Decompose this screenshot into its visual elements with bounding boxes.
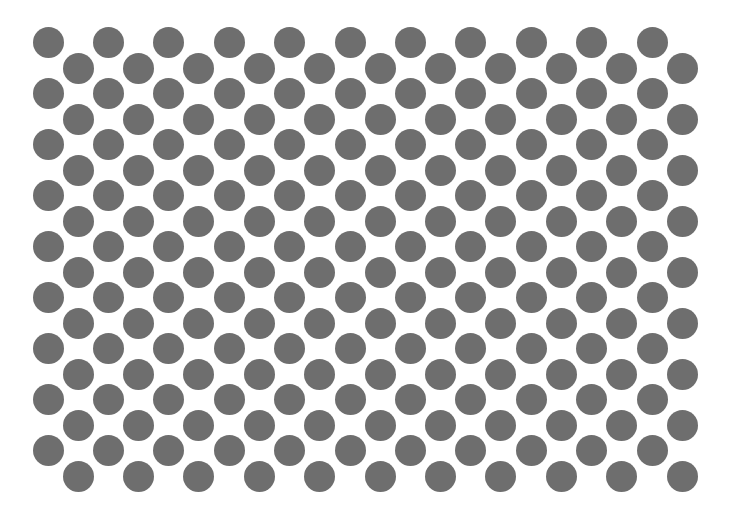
dot bbox=[637, 231, 668, 262]
dot bbox=[606, 206, 637, 237]
dot bbox=[183, 206, 214, 237]
dot bbox=[516, 282, 547, 313]
dot bbox=[637, 78, 668, 109]
dot bbox=[485, 53, 516, 84]
dot bbox=[516, 384, 547, 415]
dot bbox=[244, 461, 275, 492]
dot bbox=[123, 461, 154, 492]
dot bbox=[63, 206, 94, 237]
dot bbox=[576, 282, 607, 313]
dot bbox=[183, 461, 214, 492]
dot bbox=[304, 53, 335, 84]
dot bbox=[455, 78, 486, 109]
dot bbox=[485, 359, 516, 390]
dot bbox=[274, 231, 305, 262]
dot bbox=[214, 27, 245, 58]
dot bbox=[606, 359, 637, 390]
dot bbox=[33, 180, 64, 211]
dot bbox=[455, 333, 486, 364]
dot bbox=[274, 78, 305, 109]
dot bbox=[183, 410, 214, 441]
dot bbox=[123, 206, 154, 237]
dot bbox=[365, 461, 396, 492]
dot bbox=[33, 435, 64, 466]
dot bbox=[123, 359, 154, 390]
dot bbox=[153, 231, 184, 262]
dot bbox=[485, 410, 516, 441]
dot bbox=[395, 180, 426, 211]
dot bbox=[516, 435, 547, 466]
dot bbox=[304, 461, 335, 492]
dot bbox=[637, 384, 668, 415]
dot bbox=[516, 180, 547, 211]
dot bbox=[546, 410, 577, 441]
dot bbox=[637, 282, 668, 313]
dot bbox=[546, 53, 577, 84]
dot bbox=[33, 384, 64, 415]
dot bbox=[33, 282, 64, 313]
dot bbox=[425, 104, 456, 135]
dot bbox=[365, 206, 396, 237]
dot bbox=[304, 308, 335, 339]
dot bbox=[576, 231, 607, 262]
dot bbox=[153, 129, 184, 160]
dot bbox=[93, 333, 124, 364]
dot bbox=[274, 435, 305, 466]
dot bbox=[606, 257, 637, 288]
dot bbox=[485, 461, 516, 492]
dot bbox=[667, 206, 698, 237]
dot bbox=[214, 435, 245, 466]
dot bbox=[576, 180, 607, 211]
dot bbox=[667, 155, 698, 186]
dot bbox=[33, 333, 64, 364]
dot bbox=[63, 257, 94, 288]
dot bbox=[637, 435, 668, 466]
dot bbox=[63, 53, 94, 84]
dot bbox=[667, 53, 698, 84]
dot bbox=[63, 359, 94, 390]
dot bbox=[335, 78, 366, 109]
dot bbox=[123, 155, 154, 186]
dot bbox=[123, 53, 154, 84]
dot bbox=[365, 155, 396, 186]
dot bbox=[274, 333, 305, 364]
dot bbox=[455, 180, 486, 211]
dot bbox=[214, 129, 245, 160]
dot bbox=[546, 257, 577, 288]
dot bbox=[123, 257, 154, 288]
dot bbox=[183, 155, 214, 186]
dot-pattern-canvas bbox=[0, 0, 734, 528]
dot bbox=[425, 206, 456, 237]
dot bbox=[274, 27, 305, 58]
dot bbox=[485, 155, 516, 186]
dot bbox=[93, 27, 124, 58]
dot bbox=[546, 104, 577, 135]
dot bbox=[244, 155, 275, 186]
dot bbox=[425, 53, 456, 84]
dot bbox=[214, 231, 245, 262]
dot bbox=[395, 435, 426, 466]
dot bbox=[63, 104, 94, 135]
dot bbox=[183, 359, 214, 390]
dot bbox=[335, 435, 366, 466]
dot bbox=[93, 282, 124, 313]
dot bbox=[395, 27, 426, 58]
dot bbox=[425, 257, 456, 288]
dot bbox=[667, 257, 698, 288]
dot bbox=[93, 78, 124, 109]
dot bbox=[516, 231, 547, 262]
dot bbox=[546, 359, 577, 390]
dot bbox=[304, 155, 335, 186]
dot bbox=[516, 78, 547, 109]
dot bbox=[606, 461, 637, 492]
dot bbox=[637, 27, 668, 58]
dot bbox=[335, 27, 366, 58]
dot bbox=[365, 410, 396, 441]
dot bbox=[395, 384, 426, 415]
dot bbox=[33, 129, 64, 160]
dot bbox=[516, 333, 547, 364]
dot bbox=[425, 461, 456, 492]
dot bbox=[183, 257, 214, 288]
dot bbox=[365, 308, 396, 339]
dot bbox=[455, 384, 486, 415]
